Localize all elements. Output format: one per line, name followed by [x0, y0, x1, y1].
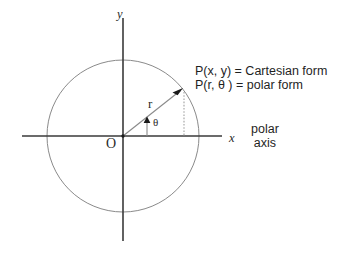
- diagram-canvas: [0, 0, 346, 254]
- radius-label: r: [148, 97, 152, 112]
- cartesian-form-label: P(x, y) = Cartesian form: [195, 64, 327, 78]
- polar-axis-label-line2: axis: [254, 136, 276, 150]
- origin-label: O: [106, 136, 116, 152]
- y-axis-label: y: [117, 7, 123, 21]
- polar-coordinate-diagram: y x O r θ P(x, y) = Cartesian form P(r, …: [0, 0, 346, 254]
- point-p-arrowhead: [173, 88, 184, 98]
- angle-marker-arrowhead: [144, 117, 151, 124]
- polar-form-label: P(r, θ ) = polar form: [195, 78, 303, 92]
- polar-axis-label: polaraxis: [251, 122, 279, 150]
- angle-theta-label: θ: [153, 116, 158, 128]
- x-axis-label: x: [229, 131, 235, 145]
- polar-axis-label-line1: polar: [251, 122, 279, 136]
- origin-dot: [121, 134, 124, 137]
